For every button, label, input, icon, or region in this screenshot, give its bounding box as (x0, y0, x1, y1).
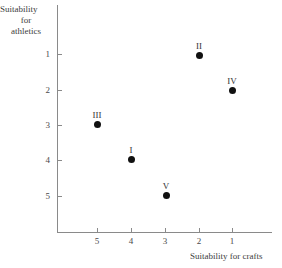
data-point-marker-V (163, 192, 170, 199)
y-axis-title-line-3: athletics (0, 26, 52, 37)
x-tick-label-4: 4 (124, 236, 138, 246)
y-tick-mark-3 (57, 125, 62, 126)
x-tick-mark-2 (199, 228, 200, 233)
data-point-marker-II (196, 52, 203, 59)
data-point-marker-IV (229, 87, 236, 94)
y-tick-label-4: 4 (36, 155, 50, 165)
y-tick-mark-2 (57, 90, 62, 91)
data-point-marker-I (128, 156, 135, 163)
data-point-label-III: III (86, 110, 108, 120)
data-point-label-II: II (188, 41, 210, 51)
x-tick-label-3: 3 (158, 236, 172, 246)
data-point-marker-III (94, 121, 101, 128)
scatter-plot: Suitability for athletics Suitability fo… (0, 0, 282, 268)
x-axis-title: Suitability for crafts (190, 251, 262, 262)
y-axis-title: Suitability for athletics (0, 4, 52, 37)
y-axis-title-line-1: Suitability (0, 4, 52, 15)
y-tick-mark-4 (57, 160, 62, 161)
x-tick-label-2: 2 (192, 236, 206, 246)
x-tick-mark-1 (232, 228, 233, 233)
data-point-label-I: I (120, 145, 142, 155)
y-tick-label-3: 3 (36, 120, 50, 130)
y-tick-label-2: 2 (36, 85, 50, 95)
data-point-label-IV: IV (221, 76, 243, 86)
x-tick-mark-5 (97, 228, 98, 233)
y-axis-title-line-2: for (0, 15, 52, 26)
y-tick-label-5: 5 (36, 191, 50, 201)
y-axis-line (57, 5, 58, 232)
x-tick-label-1: 1 (225, 236, 239, 246)
y-tick-mark-5 (57, 196, 62, 197)
y-tick-mark-1 (57, 54, 62, 55)
data-point-label-V: V (155, 181, 177, 191)
x-tick-mark-4 (131, 228, 132, 233)
x-tick-label-5: 5 (90, 236, 104, 246)
y-tick-label-1: 1 (36, 49, 50, 59)
x-tick-mark-3 (165, 228, 166, 233)
